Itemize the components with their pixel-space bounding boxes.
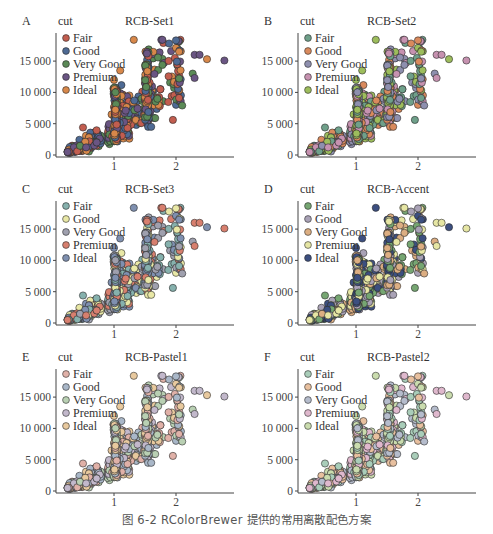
y-tick-label: 0: [45, 149, 51, 161]
figure-caption: 图 6-2 RColorBrewer 提供的常用离散配色方案: [0, 511, 493, 527]
legend-label: Fair: [73, 31, 92, 45]
y-tick-label: 5 000: [25, 118, 51, 130]
x-tick-label: 1: [111, 496, 117, 508]
panel-b: BcutRCB-Set205 00010 00015 00012FairGood…: [246, 0, 492, 168]
legend-key: [63, 371, 70, 378]
panel-c: CcutRCB-Set305 00010 00015 00012FairGood…: [0, 168, 246, 336]
legend-label: Premium: [73, 238, 118, 252]
panel-f: FcutRCB-Pastel205 00010 00015 00012FairG…: [246, 336, 492, 504]
legend-key: [63, 74, 70, 81]
legend-label: Very Good: [315, 393, 367, 407]
legend-key: [305, 255, 312, 262]
legend-key: [305, 384, 312, 391]
legend-label: Fair: [315, 31, 334, 45]
legend-label: Very Good: [73, 57, 125, 71]
y-tick-label: 10 000: [261, 422, 293, 434]
scatter-plot: 05 00010 00015 00012FairGoodVery GoodPre…: [0, 0, 246, 168]
legend-key: [305, 61, 312, 68]
legend-key: [63, 410, 70, 417]
legend-label: Ideal: [315, 251, 340, 265]
legend-label: Good: [315, 380, 342, 394]
legend-key: [63, 229, 70, 236]
legend-key: [63, 242, 70, 249]
y-tick-label: 0: [287, 485, 293, 497]
legend-key: [305, 35, 312, 42]
y-tick-label: 15 000: [261, 55, 293, 67]
legend-key: [305, 371, 312, 378]
scatter-plot: 05 00010 00015 00012FairGoodVery GoodPre…: [0, 336, 246, 504]
legend-key: [305, 203, 312, 210]
legend-label: Very Good: [73, 393, 125, 407]
y-tick-label: 5 000: [267, 286, 293, 298]
legend-label: Premium: [73, 70, 118, 84]
legend-label: Premium: [73, 406, 118, 420]
y-tick-label: 15 000: [19, 55, 51, 67]
panel-a: AcutRCB-Set105 00010 00015 00012FairGood…: [0, 0, 246, 168]
y-tick-label: 10 000: [19, 86, 51, 98]
scatter-plot: 05 00010 00015 00012FairGoodVery GoodPre…: [0, 168, 246, 336]
legend-label: Fair: [73, 367, 92, 381]
legend-key: [63, 61, 70, 68]
y-tick-label: 5 000: [25, 454, 51, 466]
panel-e: EcutRCB-Pastel105 00010 00015 00012FairG…: [0, 336, 246, 504]
y-tick-label: 15 000: [261, 391, 293, 403]
y-tick-label: 0: [287, 149, 293, 161]
y-tick-label: 5 000: [25, 286, 51, 298]
legend-key: [305, 74, 312, 81]
legend-key: [63, 397, 70, 404]
legend-key: [305, 242, 312, 249]
legend-label: Ideal: [315, 83, 340, 97]
legend-key: [63, 203, 70, 210]
legend-label: Very Good: [73, 225, 125, 239]
y-tick-label: 10 000: [19, 254, 51, 266]
legend-label: Premium: [315, 406, 360, 420]
scatter-plot: 05 00010 00015 00012FairGoodVery GoodPre…: [246, 336, 492, 504]
legend-label: Good: [315, 212, 342, 226]
legend-key: [63, 216, 70, 223]
legend-key: [63, 35, 70, 42]
legend-key: [305, 410, 312, 417]
y-tick-label: 5 000: [267, 118, 293, 130]
y-tick-label: 15 000: [261, 223, 293, 235]
legend-label: Ideal: [73, 251, 98, 265]
legend-label: Ideal: [315, 419, 340, 433]
legend-label: Good: [73, 44, 100, 58]
y-tick-label: 15 000: [19, 223, 51, 235]
legend-label: Fair: [73, 199, 92, 213]
y-tick-label: 10 000: [19, 422, 51, 434]
legend-label: Premium: [315, 238, 360, 252]
legend-key: [305, 229, 312, 236]
legend-label: Fair: [315, 367, 334, 381]
legend-label: Good: [73, 212, 100, 226]
scatter-plot: 05 00010 00015 00012FairGoodVery GoodPre…: [246, 0, 492, 168]
legend-key: [305, 87, 312, 94]
y-tick-label: 0: [45, 317, 51, 329]
legend-label: Good: [73, 380, 100, 394]
x-tick-label: 2: [173, 496, 179, 508]
legend-key: [63, 255, 70, 262]
y-tick-label: 10 000: [261, 254, 293, 266]
legend-key: [305, 48, 312, 55]
y-tick-label: 15 000: [19, 391, 51, 403]
panel-d: DcutRCB-Accent05 00010 00015 00012FairGo…: [246, 168, 492, 336]
legend-label: Ideal: [73, 419, 98, 433]
scatter-plot: 05 00010 00015 00012FairGoodVery GoodPre…: [246, 168, 492, 336]
legend-key: [63, 384, 70, 391]
y-tick-label: 5 000: [267, 454, 293, 466]
legend-key: [63, 87, 70, 94]
legend-key: [63, 48, 70, 55]
y-tick-label: 0: [45, 485, 51, 497]
legend-label: Premium: [315, 70, 360, 84]
legend-key: [305, 397, 312, 404]
legend-label: Very Good: [315, 57, 367, 71]
legend-label: Very Good: [315, 225, 367, 239]
y-tick-label: 10 000: [261, 86, 293, 98]
x-tick-label: 2: [415, 496, 421, 508]
legend-key: [63, 423, 70, 430]
y-tick-label: 0: [287, 317, 293, 329]
legend-label: Fair: [315, 199, 334, 213]
x-tick-label: 1: [353, 496, 359, 508]
legend-label: Ideal: [73, 83, 98, 97]
legend-label: Good: [315, 44, 342, 58]
legend-key: [305, 423, 312, 430]
